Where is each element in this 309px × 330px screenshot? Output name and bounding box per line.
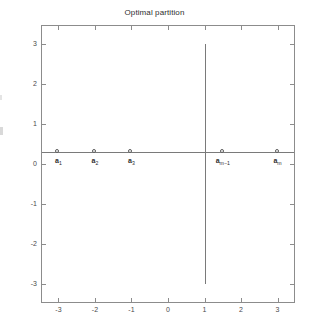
x-tick-bottom (241, 298, 242, 302)
x-tick-bottom (131, 298, 132, 302)
y-tick-label: -2 (19, 240, 37, 248)
x-tick-label: -3 (46, 306, 70, 314)
x-tick-top (58, 26, 59, 30)
x-tick-bottom (168, 298, 169, 302)
y-tick-left (42, 84, 46, 85)
y-tick-label: -3 (19, 280, 37, 288)
x-tick-bottom (205, 298, 206, 302)
x-tick-top (168, 26, 169, 30)
y-tick-right (290, 244, 294, 245)
y-tick-right (290, 44, 294, 45)
x-tick-bottom (58, 298, 59, 302)
x-tick-top (205, 26, 206, 30)
chart-title: Optimal partition (0, 8, 309, 18)
y-tick-label: 3 (19, 40, 37, 48)
y-tick-right (290, 164, 294, 165)
point-label: am−1 (208, 157, 238, 165)
y-tick-left (42, 204, 46, 205)
plot-area: a1a2a3am−1am (41, 25, 295, 303)
x-tick-label: -1 (119, 306, 143, 314)
x-tick-label: 0 (156, 306, 180, 314)
y-tick-label: 0 (19, 160, 37, 168)
y-tick-label: 1 (19, 120, 37, 128)
scan-artifact (0, 95, 2, 100)
point-label: a1 (43, 157, 73, 165)
x-tick-top (278, 26, 279, 30)
data-point-marker (220, 149, 224, 153)
x-tick-bottom (278, 298, 279, 302)
x-tick-bottom (95, 298, 96, 302)
x-tick-top (241, 26, 242, 30)
point-label-subscript: m−1 (220, 160, 230, 166)
vertical-partition-line (205, 44, 206, 284)
data-point-marker (275, 149, 279, 153)
y-tick-left (42, 244, 46, 245)
x-tick-label: 2 (229, 306, 253, 314)
scan-artifact (0, 127, 3, 135)
x-tick-top (95, 26, 96, 30)
y-tick-label: 2 (19, 80, 37, 88)
y-tick-left (42, 44, 46, 45)
y-tick-right (290, 84, 294, 85)
point-label: am (263, 157, 293, 165)
y-tick-label: -1 (19, 200, 37, 208)
y-tick-left (42, 124, 46, 125)
data-point-marker (92, 149, 96, 153)
point-label-subscript: 1 (59, 160, 62, 166)
horizontal-axis-line (42, 152, 294, 153)
x-tick-label: 1 (193, 306, 217, 314)
x-tick-label: 3 (266, 306, 290, 314)
x-tick-top (131, 26, 132, 30)
y-tick-right (290, 124, 294, 125)
point-label-subscript: 2 (95, 160, 98, 166)
y-tick-right (290, 204, 294, 205)
y-tick-right (290, 284, 294, 285)
figure-canvas: Optimal partition a1a2a3am−1am -3-2-1012… (0, 0, 309, 330)
point-label: a3 (116, 157, 146, 165)
point-label-subscript: m (277, 160, 281, 166)
plot-canvas: a1a2a3am−1am (42, 26, 294, 302)
point-label-subscript: 3 (132, 160, 135, 166)
y-tick-left (42, 164, 46, 165)
y-tick-left (42, 284, 46, 285)
point-label: a2 (80, 157, 110, 165)
x-tick-label: -2 (83, 306, 107, 314)
